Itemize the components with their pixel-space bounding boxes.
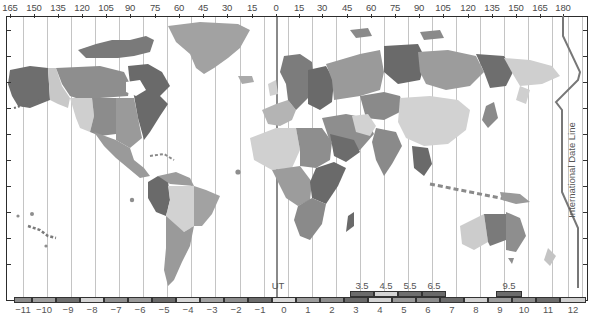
land-madagascar [346,212,354,232]
zone-cell [56,297,80,303]
zone-offset-label: 6 [425,304,430,315]
zone-cell [296,297,320,303]
zone-cell [440,297,464,303]
zone-offset-label: 8 [473,304,478,315]
zone-offset-label: 2 [329,304,334,315]
zone-offset-label: −1 [255,304,266,315]
land-arctic-islands [78,36,154,58]
land-iceland [238,76,254,84]
zone-offset-label: −2 [231,304,242,315]
zone-offset-label: −6 [135,304,146,315]
zone-offset-label: −4 [183,304,194,315]
latitude-tick [583,134,587,135]
zone-cell [200,297,224,303]
land-south-america-east [194,186,220,226]
latitude-tick [583,238,587,239]
half-hour-offset-label: 5.5 [403,280,416,291]
half-hour-offset-label: 6.5 [427,280,440,291]
latitude-tick [583,30,587,31]
zone-offset-label: −11 [15,304,30,315]
zone-offset-label: 3 [353,304,358,315]
zone-cell [80,297,104,303]
latitude-tick [583,108,587,109]
zone-offset-label: 11 [543,304,553,315]
latitude-tick [7,212,11,213]
latitude-tick [583,186,587,187]
zone-offset-label: 5 [401,304,406,315]
land-tasmania [508,258,514,264]
land-russia-far-east [504,58,560,86]
zone-offset-label: 9 [497,304,502,315]
land-arctic-russia [350,28,372,38]
zone-offset-label: −5 [159,304,170,315]
land-new-zealand [544,248,556,266]
zone-cell [416,297,440,303]
zone-cell [320,297,344,303]
latitude-tick [583,212,587,213]
zone-cell [272,297,296,303]
zone-cell [128,297,152,303]
landmasses [0,0,594,316]
land-new-guinea [500,192,530,204]
land-usa-mountain [90,98,116,136]
latitude-tick [583,56,587,57]
land-se-asia [412,146,432,176]
half-hour-offset-label: 4.5 [379,280,392,291]
latitude-tick [7,82,11,83]
land-japan [482,102,498,128]
latitude-tick [7,56,11,57]
latitude-tick [7,134,11,135]
zone-cell [104,297,128,303]
land-greenland [168,22,250,74]
zone-offset-label: −10 [36,304,52,315]
zone-offset-label: 10 [519,304,530,315]
land-south-america-west [148,176,170,216]
latitude-tick [7,160,11,161]
zone-offset-label: −7 [111,304,122,315]
zone-cell [32,297,56,303]
date-line-label: International Date Line [566,122,577,218]
zone-cell [248,297,272,303]
zone-cell [176,297,200,303]
land-africa-northwest [250,128,300,170]
land-arctic-russia2 [420,30,444,40]
latitude-tick [7,186,11,187]
land-europe-west [262,100,296,126]
latitude-tick [7,238,11,239]
ut-label: UT [272,280,285,291]
zone-cell [224,297,248,303]
land-africa-central [272,166,312,206]
zone-cell [488,297,512,303]
zone-offset-label: −3 [207,304,218,315]
land-africa-northeast [296,128,332,168]
zone-cell [464,297,488,303]
land-australia-west [460,214,488,250]
land-china [398,96,470,146]
latitude-tick [7,264,11,265]
zone-cell [392,297,416,303]
land-russia-west [326,50,384,100]
latitude-tick [583,264,587,265]
zone-offset-label: 1 [305,304,310,315]
zone-cell [512,297,536,303]
zone-cell [368,297,392,303]
land-caribbean [150,154,174,160]
zone-cell [560,297,586,303]
land-indonesia [430,184,510,200]
land-canada-central [56,66,130,98]
zone-offset-label: 7 [449,304,454,315]
zone-cell [536,297,560,303]
land-russia-east1 [418,50,484,90]
land-kamchatka [516,86,530,104]
zone-cell [152,297,176,303]
zone-cell [344,297,368,303]
zone-offset-label: 4 [377,304,382,315]
land-australia-east [506,212,526,252]
latitude-tick [7,108,11,109]
land-usa-pacific [70,98,94,132]
half-hour-offset-label: 9.5 [502,280,515,291]
land-africa-east [310,162,346,204]
land-india [372,128,402,176]
latitude-tick [583,160,587,161]
zone-cell [14,297,32,303]
